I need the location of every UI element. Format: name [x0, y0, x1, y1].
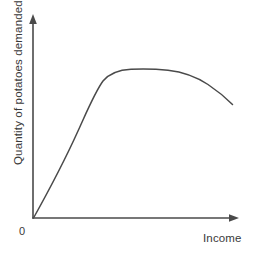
engel-curve-plot: Income Quantity of potatoes demanded 0: [0, 0, 257, 255]
x-axis-label: Income: [203, 232, 242, 244]
origin-label: 0: [19, 225, 25, 237]
y-axis-arrow-icon: [29, 14, 37, 24]
chart-figure: Income Quantity of potatoes demanded 0: [0, 0, 257, 255]
demand-curve-path: [34, 69, 233, 218]
x-axis-arrow-icon: [229, 214, 239, 222]
y-axis-label: Quantity of potatoes demanded: [12, 0, 24, 165]
